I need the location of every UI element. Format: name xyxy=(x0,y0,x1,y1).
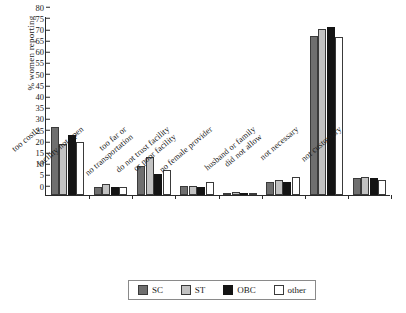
tick-label: 65 xyxy=(36,37,47,46)
tick-mark xyxy=(46,175,50,176)
y-tick-75: 75 xyxy=(36,14,47,23)
y-tick-60: 60 xyxy=(36,48,47,57)
y-tick-65: 65 xyxy=(36,37,47,46)
legend-item-sc: SC xyxy=(138,285,163,295)
tick-mark xyxy=(46,108,50,109)
tick-label: 75 xyxy=(36,14,47,23)
bar-obc xyxy=(327,27,335,195)
tick-mark xyxy=(46,18,50,19)
tick-mark xyxy=(46,7,50,8)
legend-label-obc: OBC xyxy=(237,286,256,295)
tick-mark xyxy=(46,141,50,142)
bar-st xyxy=(232,192,240,195)
tick-mark xyxy=(46,74,50,75)
bar-sc xyxy=(310,36,318,195)
legend-swatch-st xyxy=(181,285,191,295)
bar-sc xyxy=(353,178,361,195)
tick-mark xyxy=(46,52,50,53)
bar-other xyxy=(378,180,386,195)
tick-label: 30 xyxy=(36,115,47,124)
y-tick-50: 50 xyxy=(36,70,47,79)
tick-mark xyxy=(46,41,50,42)
y-tick-5: 5 xyxy=(40,171,46,180)
legend-item-other: other xyxy=(274,285,307,295)
y-tick-20: 20 xyxy=(36,138,47,147)
bar-st xyxy=(318,29,326,195)
tick-label: 35 xyxy=(36,104,47,113)
tick-mark xyxy=(46,130,50,131)
bar-group xyxy=(353,17,387,195)
bar-group xyxy=(310,17,344,195)
bar-chart: % women reporting 0510152025303540455055… xyxy=(0,0,406,313)
bar-obc xyxy=(240,193,248,195)
x-tick xyxy=(348,195,349,199)
bar-other xyxy=(335,37,343,195)
tick-label: 80 xyxy=(36,3,47,12)
y-tick-70: 70 xyxy=(36,26,47,35)
legend-label-other: other xyxy=(288,286,307,295)
tick-label: 45 xyxy=(36,82,47,91)
y-tick-80: 80 xyxy=(36,3,47,12)
y-tick-30: 30 xyxy=(36,115,47,124)
legend-label-sc: SC xyxy=(152,286,163,295)
tick-label: 60 xyxy=(36,48,47,57)
legend-swatch-obc xyxy=(223,285,233,295)
tick-mark xyxy=(46,29,50,30)
tick-label: 70 xyxy=(36,26,47,35)
tick-mark xyxy=(46,119,50,120)
tick-label: 40 xyxy=(36,93,47,102)
tick-mark xyxy=(46,85,50,86)
x-tick xyxy=(391,195,392,199)
y-axis-title: % women reporting xyxy=(26,0,36,128)
y-tick-55: 55 xyxy=(36,59,47,68)
y-tick-35: 35 xyxy=(36,104,47,113)
chart-legend: SCSTOBCother xyxy=(128,280,316,300)
x-tick xyxy=(305,195,306,199)
legend-label-st: ST xyxy=(195,286,206,295)
y-tick-45: 45 xyxy=(36,82,47,91)
bar-other xyxy=(292,177,300,195)
y-tick-40: 40 xyxy=(36,93,47,102)
tick-label: 50 xyxy=(36,70,47,79)
tick-mark xyxy=(46,97,50,98)
legend-item-st: ST xyxy=(181,285,206,295)
legend-item-obc: OBC xyxy=(223,285,256,295)
bar-obc xyxy=(370,178,378,195)
legend-swatch-sc xyxy=(138,285,148,295)
tick-label: 20 xyxy=(36,138,47,147)
bar-st xyxy=(361,177,369,195)
bar-obc xyxy=(283,182,291,195)
legend-swatch-other xyxy=(274,285,284,295)
tick-mark xyxy=(46,63,50,64)
tick-label: 55 xyxy=(36,59,47,68)
